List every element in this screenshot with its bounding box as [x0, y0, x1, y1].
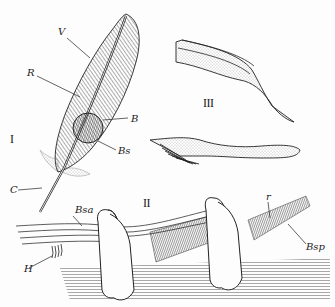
feather-panel-i	[18, 14, 139, 212]
feather-diagram: V R B Bs C Bsa H r Bsp I II III	[0, 0, 335, 307]
barb-panel-ii	[16, 196, 330, 300]
label-h-hooklets: H	[24, 264, 33, 274]
label-c-calamus: C	[10, 185, 18, 195]
panel-label-iii: III	[203, 97, 214, 109]
label-bsp-posterior-barbule: Bsp	[306, 242, 325, 252]
label-v-vane: V	[58, 27, 65, 37]
feather-illustration	[0, 0, 335, 307]
label-bsa-anterior-barbule: Bsa	[75, 205, 93, 215]
panel-label-ii: II	[143, 197, 150, 209]
label-r-ridge: r	[266, 192, 271, 202]
barbule-panel-iii	[150, 40, 300, 164]
label-b-barb: B	[131, 114, 138, 124]
label-bs-barbule: Bs	[118, 146, 130, 156]
label-r-rachis: R	[27, 68, 35, 78]
panel-label-i: I	[10, 133, 14, 145]
